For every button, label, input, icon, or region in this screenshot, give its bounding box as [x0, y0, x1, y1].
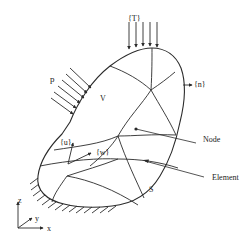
normal-label: {n}: [194, 80, 206, 89]
element-leader: [145, 161, 204, 177]
support-hatching: [30, 178, 116, 213]
y-axis-label: y: [35, 214, 39, 223]
w-vector: [68, 153, 91, 164]
body-outline: [38, 48, 185, 207]
pressure-arrows: [51, 68, 91, 114]
coordinate-axes: [18, 202, 43, 228]
u-label: {u}: [60, 138, 72, 147]
node-leader: [136, 129, 196, 143]
mesh-lines: [40, 48, 178, 205]
traction-arrows: [129, 22, 157, 49]
volume-label: V: [100, 94, 106, 103]
node-label: Node: [203, 135, 221, 144]
z-axis-label: z: [18, 196, 22, 205]
node-dot: [134, 127, 137, 130]
surface-label: S: [149, 185, 153, 194]
element-label: Element: [212, 173, 239, 182]
traction-label: {T}: [128, 14, 141, 23]
element-arrowhead: [143, 160, 149, 164]
pressure-label: p: [50, 74, 55, 84]
x-axis-label: x: [47, 224, 51, 233]
w-label: {w}: [96, 148, 110, 157]
fem-diagram: {T} p V {n} Node Element S {u} {w}: [0, 0, 252, 246]
